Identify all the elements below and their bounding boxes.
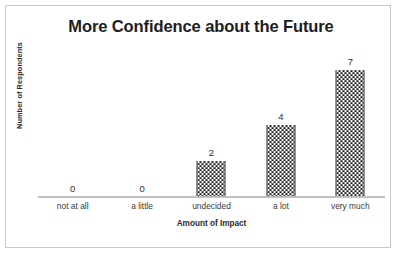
bar (197, 161, 226, 197)
x-tick-label: a little (107, 201, 176, 211)
bar-column: 7 (316, 52, 385, 197)
bar-value-label: 2 (209, 147, 214, 158)
x-axis-label: Amount of Impact (38, 219, 385, 228)
x-tick-label: very much (316, 201, 385, 211)
bar (336, 70, 365, 197)
x-axis-line (38, 196, 385, 198)
bar (266, 125, 295, 198)
bar-column: 0 (107, 52, 176, 197)
bar-column: 4 (246, 52, 315, 197)
bar-column: 0 (38, 52, 107, 197)
x-axis-tick-labels: not at alla littleundecideda lotvery muc… (38, 201, 385, 215)
bar-value-label: 7 (348, 56, 353, 67)
y-axis-label: Number of Respondents (15, 31, 24, 141)
x-tick-label: a lot (246, 201, 315, 211)
chart-title: More Confidence about the Future (0, 17, 402, 36)
x-tick-label: not at all (38, 201, 107, 211)
x-tick-label: undecided (177, 201, 246, 211)
bar-value-label: 0 (139, 183, 144, 194)
bar-chart-figure: More Confidence about the Future Number … (0, 0, 402, 259)
bar-value-label: 4 (278, 111, 283, 122)
bar-column: 2 (177, 52, 246, 197)
plot-area: 00247 (38, 52, 385, 197)
bar-value-label: 0 (70, 183, 75, 194)
